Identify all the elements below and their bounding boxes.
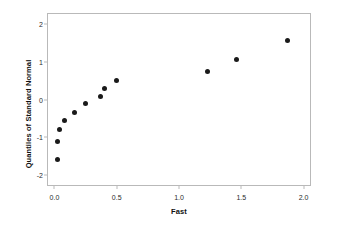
y-axis-title: Quantiles of Standard Normal bbox=[24, 44, 33, 184]
data-point bbox=[234, 57, 239, 62]
x-tick-mark bbox=[241, 186, 242, 189]
x-tick-mark bbox=[303, 186, 304, 189]
data-point bbox=[57, 127, 62, 132]
y-tick-label: 1 bbox=[39, 58, 43, 65]
normal-quantile-plot: Quantiles of Standard Normal 210-1-2 Fas… bbox=[0, 0, 359, 228]
data-point bbox=[102, 86, 107, 91]
scatter-series bbox=[48, 14, 310, 185]
x-tick-label: 0.5 bbox=[112, 194, 122, 201]
y-tick-label: -1 bbox=[37, 134, 43, 141]
x-tick-mark bbox=[116, 186, 117, 189]
x-tick-mark bbox=[54, 186, 55, 189]
data-point bbox=[55, 139, 60, 144]
y-tick-label: -2 bbox=[37, 171, 43, 178]
x-axis: Fast 0.00.51.01.52.0 bbox=[47, 186, 311, 228]
plot-area bbox=[47, 13, 311, 186]
x-tick-label: 1.0 bbox=[174, 194, 184, 201]
x-tick-label: 2.0 bbox=[299, 194, 309, 201]
data-point bbox=[205, 69, 210, 74]
x-tick-label: 0.0 bbox=[50, 194, 60, 201]
data-point bbox=[62, 118, 67, 123]
y-axis: Quantiles of Standard Normal 210-1-2 bbox=[0, 0, 47, 228]
x-axis-title: Fast bbox=[47, 207, 311, 216]
data-point bbox=[55, 157, 60, 162]
y-tick-label: 0 bbox=[39, 96, 43, 103]
data-point bbox=[114, 78, 119, 83]
data-point bbox=[98, 94, 103, 99]
y-tick-label: 2 bbox=[39, 21, 43, 28]
data-point bbox=[83, 101, 88, 106]
data-point bbox=[285, 38, 290, 43]
x-tick-label: 1.5 bbox=[236, 194, 246, 201]
data-point bbox=[72, 110, 77, 115]
x-tick-mark bbox=[179, 186, 180, 189]
